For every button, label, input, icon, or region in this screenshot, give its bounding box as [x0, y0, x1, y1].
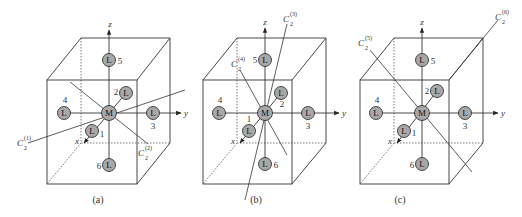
- svg-text:2: 2: [24, 145, 27, 151]
- svg-text:C: C: [495, 12, 502, 22]
- ligand-1: L 1: [398, 125, 417, 139]
- svg-text:L: L: [262, 159, 268, 169]
- svg-text:L: L: [61, 108, 67, 118]
- metal-center: M: [102, 106, 117, 121]
- panel-a: z x L 5 L 2 L 4 L 3 L 1 L: [17, 19, 185, 206]
- ligand-2: L 2: [114, 87, 133, 100]
- ligand-5: L 5: [416, 54, 436, 67]
- svg-text:L: L: [106, 55, 112, 65]
- svg-text:C: C: [358, 38, 365, 48]
- svg-text:6: 6: [274, 160, 279, 170]
- svg-text:L: L: [419, 55, 425, 65]
- svg-text:(3): (3): [290, 11, 297, 18]
- svg-text:L: L: [434, 86, 440, 96]
- svg-text:L: L: [216, 108, 222, 118]
- svg-text:5: 5: [118, 56, 123, 66]
- ligand-3: L 3: [459, 107, 472, 132]
- ligand-5: L 5: [103, 54, 123, 67]
- y-axis-label-a: y: [183, 108, 188, 118]
- svg-text:L: L: [401, 126, 407, 136]
- c2-axis-6-label: C 2 (6): [495, 9, 509, 25]
- z-axis-label: z: [262, 17, 267, 27]
- svg-text:1: 1: [412, 128, 417, 138]
- svg-text:C: C: [138, 148, 145, 158]
- ligand-5: L 5: [253, 54, 272, 67]
- svg-text:6: 6: [97, 161, 102, 171]
- svg-text:M: M: [418, 108, 426, 118]
- svg-text:5: 5: [253, 55, 258, 65]
- c2-axis-6-line: [449, 20, 498, 80]
- svg-text:L: L: [246, 126, 252, 136]
- svg-text:3: 3: [306, 121, 311, 131]
- z-axis-label: z: [419, 17, 424, 27]
- panel-b: y y z x L 5 L 2 L 4 L 3 L: [183, 11, 346, 206]
- cube-hidden-edge: [360, 143, 394, 184]
- svg-text:M: M: [261, 108, 269, 118]
- x-axis-label: x: [230, 136, 235, 146]
- panel-a-caption: (a): [92, 194, 103, 206]
- metal-center: M: [258, 106, 273, 121]
- svg-text:3: 3: [151, 121, 156, 131]
- ligand-4: L 4: [58, 95, 71, 120]
- svg-text:(6): (6): [502, 9, 509, 16]
- svg-text:C: C: [231, 59, 238, 69]
- svg-text:(5): (5): [365, 35, 372, 42]
- svg-text:(4): (4): [238, 56, 245, 63]
- z-axis-label: z: [107, 19, 112, 29]
- ligand-3: L 3: [147, 107, 160, 132]
- c2-axis-3-label: C 2 (3): [283, 11, 297, 27]
- c2-axis-4-label: C 2 (4): [231, 56, 245, 72]
- c2-axis-5-label: C 2 (5): [358, 35, 372, 51]
- ligand-1: L 1: [243, 114, 256, 138]
- ligand-1: L 1: [86, 125, 105, 140]
- svg-text:2: 2: [365, 45, 368, 51]
- panel-c: z y x L 5 L 2 L 4 L 3 L 1 L: [358, 9, 509, 206]
- svg-text:L: L: [89, 126, 95, 136]
- svg-text:4: 4: [375, 95, 380, 105]
- svg-text:2: 2: [425, 86, 430, 96]
- cube-hidden-edge: [47, 143, 81, 184]
- svg-text:4: 4: [63, 95, 68, 105]
- svg-text:2: 2: [145, 155, 148, 161]
- cube-hidden-edge: [203, 143, 237, 184]
- svg-text:2: 2: [280, 99, 285, 109]
- svg-text:2: 2: [502, 19, 505, 25]
- svg-text:3: 3: [463, 121, 468, 131]
- svg-text:L: L: [373, 108, 379, 118]
- x-axis-label: x: [74, 136, 79, 146]
- svg-text:L: L: [419, 159, 425, 169]
- ligand-6: L 6: [259, 158, 279, 171]
- svg-text:6: 6: [410, 160, 415, 170]
- svg-text:L: L: [150, 108, 156, 118]
- svg-text:(2): (2): [145, 145, 152, 152]
- svg-text:5: 5: [431, 56, 436, 66]
- ligand-2: L 2: [275, 87, 288, 110]
- panel-c-caption: (c): [394, 194, 405, 206]
- c2-axis-2-label: C 2 (2): [138, 145, 152, 161]
- y-axis-label: y: [500, 108, 505, 118]
- svg-text:2: 2: [290, 21, 293, 27]
- y-axis-label: y: [341, 108, 346, 118]
- svg-text:L: L: [262, 55, 268, 65]
- svg-text:L: L: [462, 108, 468, 118]
- svg-text:C: C: [17, 138, 24, 148]
- svg-text:C: C: [283, 14, 290, 24]
- ligand-4: L 4: [370, 95, 383, 120]
- svg-text:(1): (1): [24, 135, 31, 142]
- metal-center: M: [415, 106, 430, 121]
- svg-text:L: L: [106, 160, 112, 170]
- svg-text:1: 1: [100, 129, 105, 139]
- ligand-6: L 6: [410, 158, 429, 171]
- svg-text:2: 2: [114, 87, 119, 97]
- ligand-2: L 2: [425, 85, 444, 98]
- svg-text:4: 4: [218, 95, 223, 105]
- svg-text:2: 2: [238, 66, 241, 72]
- svg-text:M: M: [105, 108, 113, 118]
- svg-text:L: L: [123, 88, 129, 98]
- x-axis-label: x: [387, 136, 392, 146]
- ligand-4: L 4: [213, 95, 226, 120]
- svg-text:L: L: [278, 88, 284, 98]
- octahedral-c2-axes-figure: z x L 5 L 2 L 4 L 3 L 1 L: [0, 0, 522, 217]
- svg-text:L: L: [305, 108, 311, 118]
- svg-text:1: 1: [247, 114, 252, 124]
